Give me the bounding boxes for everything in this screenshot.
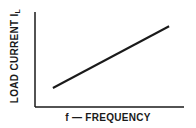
y-axis-label: LOAD CURRENT IL [9,9,21,103]
x-axis-label: f — FREQUENCY [65,112,151,123]
chart-plot-area [0,0,196,128]
data-line [53,26,169,88]
